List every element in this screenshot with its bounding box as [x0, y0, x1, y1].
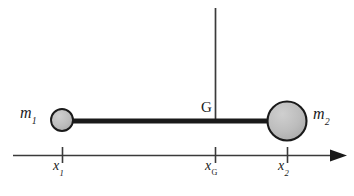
- mass2-sphere: [268, 102, 307, 141]
- x-axis-arrowhead: [330, 150, 347, 162]
- mass2-subscript: 2: [325, 116, 330, 127]
- mass2-label: m2: [313, 106, 330, 125]
- tick-label-x2: x2: [278, 159, 289, 175]
- physics-diagram-canvas: m1 m2 G x1 xG x2: [0, 0, 354, 196]
- tick-label-xg-subscript: G: [212, 168, 218, 177]
- mass1-label: m1: [20, 105, 37, 124]
- mass2-symbol: m: [313, 105, 325, 122]
- tick-label-x1-subscript: 1: [59, 168, 63, 178]
- tick-label-xg: xG: [205, 159, 217, 176]
- tick-label-xg-symbol: x: [205, 158, 211, 173]
- mass1-subscript: 1: [32, 115, 37, 126]
- mass1-symbol: m: [20, 104, 32, 121]
- centre-of-mass-label: G: [201, 100, 212, 115]
- mass1-sphere: [51, 109, 73, 131]
- tick-label-x2-subscript: 2: [284, 168, 288, 178]
- tick-label-x1: x1: [53, 159, 64, 175]
